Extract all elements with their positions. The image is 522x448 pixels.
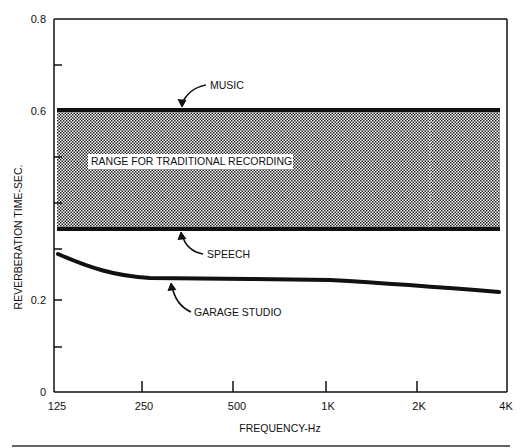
x-tick-label-1k: 1K [321, 400, 335, 412]
y-tick-label-0.6: 0.6 [31, 105, 46, 117]
garage-studio-curve [58, 254, 499, 292]
garage-label: GARAGE STUDIO [194, 306, 282, 318]
music-label: MUSIC [210, 79, 244, 91]
x-ticks [142, 381, 417, 392]
reverberation-chart: 0.8 0.6 0.2 0 125 250 500 1K 2K 4K FREQU… [0, 0, 522, 448]
y-tick-label-0.2: 0.2 [31, 294, 46, 306]
x-tick-label-250: 250 [135, 400, 153, 412]
x-tick-label-500: 500 [228, 400, 246, 412]
range-label: RANGE FOR TRADITIONAL RECORDING [91, 155, 292, 167]
y-tick-label-0: 0 [40, 386, 46, 398]
speech-label: SPEECH [207, 248, 250, 260]
x-tick-label-125: 125 [48, 400, 66, 412]
y-axis-title: REVERBERATION TIME-SEC. [12, 165, 24, 310]
x-tick-label-2k: 2K [412, 400, 426, 412]
y-tick-label-0.8: 0.8 [31, 13, 46, 25]
x-axis-title: FREQUENCY-Hz [239, 422, 320, 434]
traditional-recording-range [57, 111, 500, 229]
x-tick-label-4k: 4K [499, 400, 513, 412]
